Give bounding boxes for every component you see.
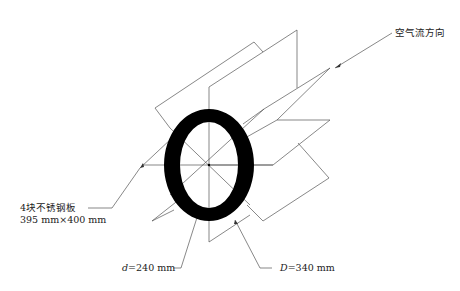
leader-plates bbox=[88, 168, 140, 208]
center-point bbox=[208, 164, 210, 166]
arrow-D-icon bbox=[234, 220, 238, 224]
leader-D bbox=[235, 220, 272, 268]
outer-diameter-label: D=340 mm bbox=[280, 262, 335, 274]
outer-diameter-var: D bbox=[280, 262, 288, 273]
plate-upper bbox=[209, 30, 297, 165]
arrow-plates-icon bbox=[140, 163, 144, 168]
diagram-canvas bbox=[0, 0, 460, 291]
plates-label-line1: 4块不锈钢板 bbox=[20, 202, 76, 214]
inner-diameter-label: d=240 mm bbox=[122, 262, 175, 274]
plate-spike bbox=[243, 68, 330, 138]
plate-right-lower bbox=[247, 143, 329, 221]
plates-label-line2: 395 mm×400 mm bbox=[20, 214, 106, 226]
airflow-label: 空气流方向 bbox=[395, 27, 445, 39]
outer-diameter-value: =340 mm bbox=[288, 262, 335, 273]
leader-airflow bbox=[335, 33, 392, 68]
inner-diameter-value: =240 mm bbox=[128, 262, 175, 273]
